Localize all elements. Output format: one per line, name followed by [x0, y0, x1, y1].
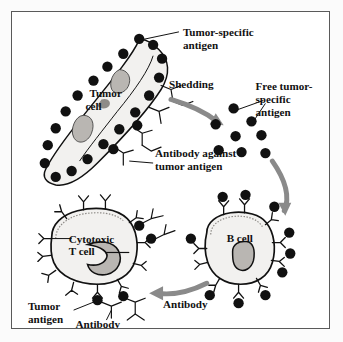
free-antigen-line3: antigen [255, 106, 291, 118]
tumor-antigen-line1: Tumor [28, 300, 60, 312]
antibody-against-tumor-antigen-label: Antibody against tumor antigen [129, 147, 236, 172]
free-antigen-dot [211, 119, 221, 129]
b-cell-label: B cell [227, 232, 253, 244]
free-antigen-dot [230, 131, 240, 141]
tumor-specific-antigen-line1: Tumor-specific [183, 26, 254, 38]
tumor-cell-label-line2: cell [86, 100, 102, 112]
b-cell-nucleus [233, 241, 255, 270]
figure-panel: Tumor cell Tumor-specific antigen Sheddi… [11, 11, 330, 329]
cytotoxic-t-cell-line1: Cytotoxic [69, 233, 115, 245]
antibody-bottom-label: Antibody [76, 310, 121, 328]
shedding-label: Shedding [169, 78, 214, 90]
antibody-against-leader-line [129, 161, 153, 163]
b-cell-group [186, 190, 296, 309]
free-antigen-dot [256, 130, 266, 140]
tumor-antigen-leader-line [74, 302, 94, 310]
diagram-canvas: Tumor cell Tumor-specific antigen Sheddi… [12, 12, 329, 328]
tumor-cell-label-line1: Tumor [90, 87, 122, 99]
free-antigen-dot [228, 103, 238, 113]
tumor-specific-antigen-leader-line [141, 32, 179, 40]
tumor-specific-antigen-label: Tumor-specific antigen [141, 26, 254, 51]
antibody-against-line2: tumor antigen [155, 160, 223, 172]
free-antigen-dot [236, 147, 246, 157]
tumor-antigen-line2: antigen [28, 313, 64, 325]
antibody-against-line1: Antibody against [155, 147, 236, 159]
antibody-bottom-text: Antibody [76, 318, 121, 328]
tumor-specific-antigen-line2: antigen [183, 39, 219, 51]
antibody-arrow-label: Antibody [163, 298, 208, 310]
free-antigen-label: Free tumor- specific antigen [255, 81, 312, 119]
cytotoxic-t-cell-line2: T cell [69, 245, 95, 257]
free-antigen-line1: Free tumor- [255, 81, 312, 93]
free-antigen-dot [260, 148, 270, 158]
free-antigen-line2: specific [255, 93, 290, 105]
